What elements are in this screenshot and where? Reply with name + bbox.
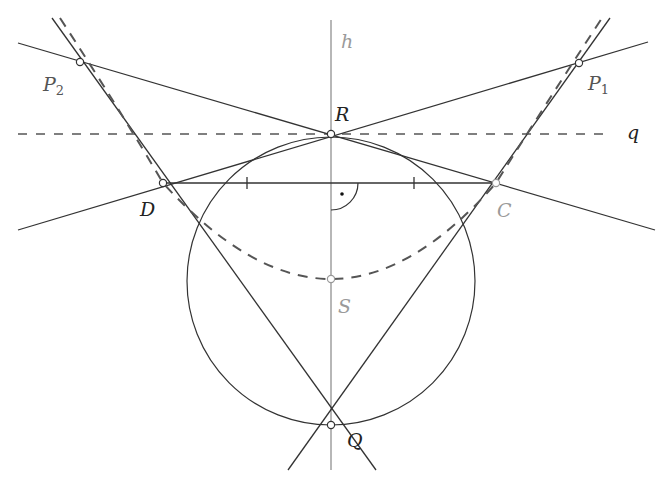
label-P2: P2 [42, 73, 64, 98]
point-D [159, 179, 166, 186]
label-P1: P1 [587, 72, 609, 97]
label-P1-main: P [587, 72, 602, 94]
point-P2 [76, 58, 83, 65]
geometry-diagram: h q R D C S Q P2 P1 [0, 0, 666, 477]
label-P2-sub: 2 [56, 83, 64, 98]
point-Q [327, 421, 334, 428]
label-S: S [338, 295, 351, 317]
label-h: h [341, 30, 353, 52]
label-R: R [334, 103, 349, 125]
point-S [327, 275, 334, 282]
label-q: q [627, 121, 639, 143]
label-C: C [497, 199, 512, 221]
point-R [327, 130, 334, 137]
right-angle-dot [340, 192, 344, 196]
point-P1 [575, 59, 582, 66]
line-P2-D-Q [52, 18, 376, 470]
right-angle-arc [331, 183, 358, 210]
label-Q: Q [347, 429, 363, 451]
label-P1-sub: 1 [601, 82, 609, 97]
label-P2-main: P [42, 73, 57, 95]
line-P1-C-Q [288, 18, 610, 470]
point-C [492, 179, 499, 186]
label-D: D [139, 198, 155, 220]
